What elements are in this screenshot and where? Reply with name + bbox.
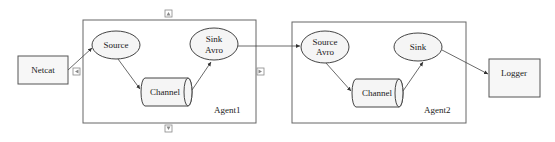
agent2-source-avro-node[interactable]: Source Avro xyxy=(301,31,349,63)
agent1-sink-avro-node[interactable]: Sink Avro xyxy=(190,28,238,60)
resize-handle-right[interactable] xyxy=(257,68,264,75)
agent1-sink-label-line1: Sink xyxy=(206,34,223,44)
agent1-source-node[interactable]: Source xyxy=(92,31,140,59)
agent2-channel-label: Channel xyxy=(362,88,392,98)
agent1-sink-label-line2: Avro xyxy=(205,45,223,55)
agent2-sink-node[interactable]: Sink xyxy=(394,33,442,61)
netcat-label: Netcat xyxy=(31,65,55,75)
logger-label: Logger xyxy=(501,68,527,78)
agent1-channel-label: Channel xyxy=(150,87,180,97)
agent2-channel-node[interactable]: Channel xyxy=(352,79,403,107)
agent2-source-label-line2: Avro xyxy=(316,47,334,57)
agent2-sink-label: Sink xyxy=(410,42,427,52)
agent1-label: Agent1 xyxy=(214,105,241,115)
logger-node[interactable]: Logger xyxy=(489,59,540,97)
agent1-channel-node[interactable]: Channel xyxy=(141,78,192,106)
netcat-node[interactable]: Netcat xyxy=(18,56,68,84)
agent2-label: Agent2 xyxy=(424,105,451,115)
agent1-source-label: Source xyxy=(104,40,129,50)
resize-handle-top[interactable] xyxy=(165,10,172,17)
agent2-source-label-line1: Source xyxy=(313,37,338,47)
flume-diagram: Agent1 Agent2 Netcat Source Sink Avro Ch… xyxy=(0,0,555,142)
resize-handle-bottom[interactable] xyxy=(165,125,172,132)
resize-handle-left[interactable] xyxy=(73,68,80,75)
